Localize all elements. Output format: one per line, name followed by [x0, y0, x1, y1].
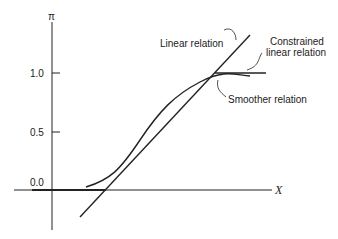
- label-smoother: Smoother relation: [228, 94, 307, 105]
- label-constrained-2: linear relation: [266, 47, 326, 58]
- label-constrained-1: Constrained: [270, 36, 324, 47]
- leader-smoother: [217, 80, 226, 97]
- tick-label-1: 1.0: [30, 68, 44, 79]
- smoother-relation-curve: [86, 74, 250, 187]
- x-axis-label: X: [274, 183, 283, 197]
- label-linear: Linear relation: [160, 38, 223, 49]
- tick-label-05: 0.5: [30, 127, 44, 138]
- leader-linear: [224, 29, 236, 40]
- tick-label-0: 0.0: [30, 177, 44, 188]
- relation-diagram: π X 1.0 0.5 0.0 Linear relation Constrai…: [0, 0, 338, 239]
- y-axis-label: π: [48, 11, 55, 22]
- leader-constrained: [247, 53, 262, 70]
